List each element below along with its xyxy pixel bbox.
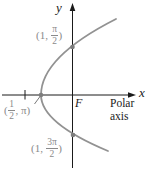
polar-axis-caption: Polar axis: [110, 97, 148, 122]
point-label-suffix: ): [58, 143, 62, 154]
focus-label: F: [75, 97, 82, 109]
y-axis-arrowhead-icon: [70, 3, 76, 11]
polar-parabola-diagram: y x F Polar axis (1, π2) (12, π) (1, 3π2…: [0, 0, 148, 182]
y-axis-label: y: [56, 1, 62, 14]
point-label-suffix: ): [58, 30, 62, 41]
point-dot-half-pi: [39, 93, 44, 98]
fraction: 12: [8, 100, 16, 122]
fraction: 3π2: [46, 138, 59, 160]
point-label-suffix: , π): [15, 105, 30, 116]
diagram-canvas: [0, 0, 148, 182]
point-dot-1-3pi-over-2: [71, 133, 76, 138]
point-label-1-pi-over-2: (1, π2): [36, 25, 62, 47]
point-label-prefix: (1,: [36, 30, 51, 41]
label-leader-line: [35, 97, 41, 105]
point-dot-1-pi-over-2: [70, 45, 75, 50]
point-label-prefix: (1,: [31, 143, 46, 154]
point-label-half-pi: (12, π): [4, 100, 30, 122]
point-label-1-3pi-over-2: (1, 3π2): [31, 138, 62, 160]
fraction: π2: [51, 25, 59, 47]
